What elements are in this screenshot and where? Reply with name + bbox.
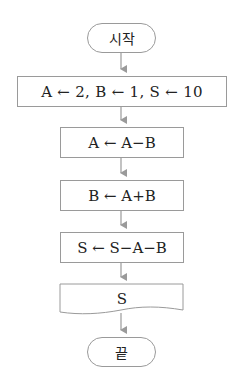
process-update-b-label: B ← A+B <box>88 187 156 205</box>
end-label: 끝 <box>115 342 128 362</box>
process-init-label: A ← 2, B ← 1, S ← 10 <box>41 83 203 101</box>
process-update-s: S ← S−A−B <box>60 232 184 263</box>
process-update-a: A ← A−B <box>60 127 184 158</box>
output-label: S <box>60 290 184 308</box>
end-terminal: 끝 <box>87 337 156 367</box>
process-update-s-label: S ← S−A−B <box>77 239 167 257</box>
output-node: S <box>60 284 184 314</box>
process-init: A ← 2, B ← 1, S ← 10 <box>17 76 227 107</box>
process-update-a-label: A ← A−B <box>88 134 155 152</box>
start-label: 시작 <box>109 28 135 48</box>
process-update-b: B ← A+B <box>60 180 184 211</box>
start-terminal: 시작 <box>87 23 156 53</box>
